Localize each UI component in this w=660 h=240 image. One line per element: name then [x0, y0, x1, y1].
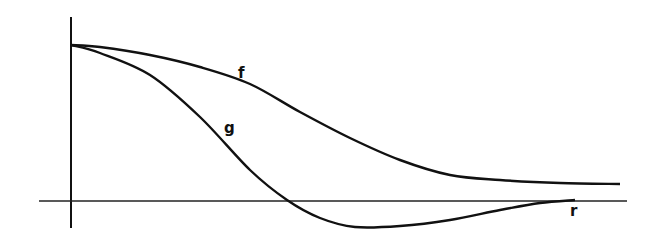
label-r: r [570, 202, 578, 220]
label-f: f [238, 64, 245, 82]
curve-f [71, 45, 620, 184]
chart: f g r [0, 0, 660, 240]
label-g: g [224, 119, 235, 137]
curve-g [71, 45, 575, 228]
